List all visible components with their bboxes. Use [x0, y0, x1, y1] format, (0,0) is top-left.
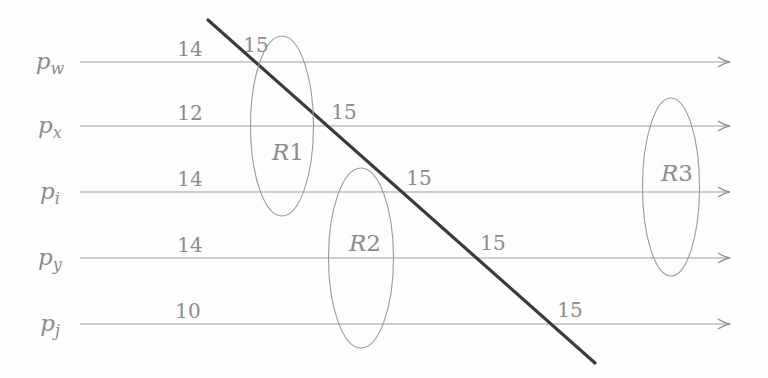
- region-label-number: 2: [366, 230, 381, 256]
- process-label-px: px: [38, 112, 62, 142]
- region-label-r2: R2: [348, 230, 381, 256]
- clock-value-left-py: 14: [177, 233, 202, 257]
- process-label-base: p: [38, 112, 53, 138]
- region-label-number: 3: [678, 160, 693, 186]
- clock-value-cut-pj: 15: [557, 298, 582, 322]
- process-row-py: py 14 15: [38, 231, 730, 274]
- clock-value-left-pw: 14: [177, 37, 202, 61]
- clock-value-left-pi: 14: [177, 167, 202, 191]
- process-label-pw: pw: [36, 48, 65, 78]
- clock-value-left-px: 12: [177, 101, 202, 125]
- process-row-pi: pi 14 15: [40, 166, 730, 208]
- region-label-number: 1: [289, 139, 304, 165]
- clock-value-cut-py: 15: [480, 231, 505, 255]
- region-label-letter: R: [348, 230, 366, 256]
- region-label-letter: R: [271, 139, 289, 165]
- process-label-base: p: [40, 310, 55, 336]
- consistent-cut-diagram: pw 14 15 px 12 15 pi 14 15 py 14 15: [0, 0, 768, 378]
- process-label-sub: y: [52, 255, 63, 274]
- process-label-base: p: [40, 178, 55, 204]
- process-label-sub: i: [55, 189, 60, 208]
- process-label-py: py: [38, 244, 63, 274]
- clock-value-left-pj: 10: [175, 299, 200, 323]
- region-label-r3: R3: [660, 160, 693, 186]
- process-row-pw: pw 14 15: [36, 33, 730, 78]
- process-row-px: px 12 15: [38, 100, 730, 142]
- process-label-base: p: [36, 48, 51, 74]
- region-r3: R3: [643, 98, 700, 276]
- region-ellipse-r3: [643, 98, 700, 276]
- clock-value-cut-px: 15: [331, 100, 356, 124]
- diagram-canvas: pw 14 15 px 12 15 pi 14 15 py 14 15: [0, 0, 768, 378]
- region-label-letter: R: [660, 160, 678, 186]
- process-label-base: p: [38, 244, 53, 270]
- process-label-pj: pj: [40, 310, 60, 340]
- region-label-r1: R1: [271, 139, 304, 165]
- clock-value-cut-pi: 15: [406, 166, 431, 190]
- process-label-sub: w: [51, 59, 65, 78]
- process-label-sub: x: [53, 123, 62, 142]
- process-label-pi: pi: [40, 178, 60, 208]
